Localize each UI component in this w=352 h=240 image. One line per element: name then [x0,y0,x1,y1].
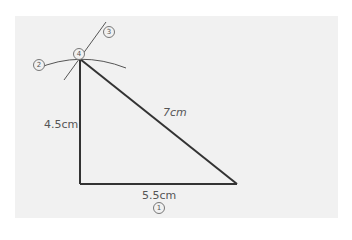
step-marker-2: 2 [33,59,45,71]
step-marker-1: 1 [153,202,165,214]
side-hypotenuse [80,59,237,184]
step-marker-3: 3 [103,26,115,38]
label-base: 5.5cm [142,189,176,202]
step-marker-4: 4 [73,48,85,60]
label-hypotenuse: 7cm [163,106,187,119]
label-left-side: 4.5cm [44,118,78,131]
construction-line [64,22,106,80]
